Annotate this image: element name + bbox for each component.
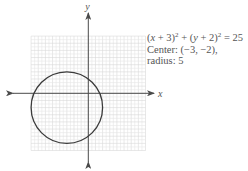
coordinate-plane-figure: x y [0,0,248,171]
equation-term-2: + 2) [198,32,218,43]
equation-term-1: + 3) [155,32,175,43]
equation-rhs: = 25 [221,32,243,43]
y-axis-label: y [84,1,90,12]
equation: (x + 3)2 + (y + 2)2 = 25 [147,32,243,44]
x-axis-label: x [157,88,163,99]
equation-annotation: (x + 3)2 + (y + 2)2 = 25 Center: (−3, −2… [147,32,243,67]
center-text: Center: (−3, −2), [147,44,243,56]
radius-text: radius: 5 [147,55,243,67]
equation-plus: + ( [179,32,194,43]
axes: x y [13,1,163,162]
